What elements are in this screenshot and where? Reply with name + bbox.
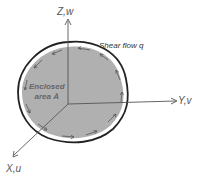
enclosed-area-label-line2: area Ā: [29, 92, 65, 102]
enclosed-area-label: Enclosed area Ā: [29, 82, 65, 102]
shear-flow-label: Shear flow q: [99, 41, 143, 50]
y-axis-label: Y,v: [178, 95, 192, 106]
z-axis-label: Z,w: [57, 6, 73, 17]
shear-flow-diagram: Z,w Y,v X,u Shear flow q Enclosed area Ā: [0, 0, 198, 178]
enclosed-area-label-line1: Enclosed: [29, 82, 65, 92]
x-axis-label: X,u: [6, 163, 21, 174]
